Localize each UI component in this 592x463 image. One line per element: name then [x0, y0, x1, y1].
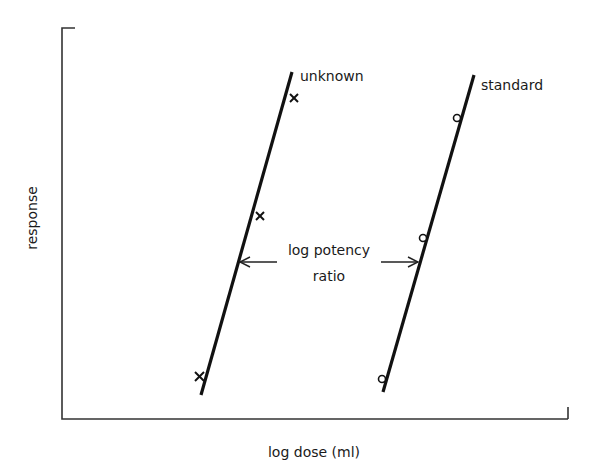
o-marker — [420, 235, 427, 242]
unknown-line — [201, 72, 292, 395]
x-marker — [256, 212, 264, 220]
potency-ratio-label-line1: log potency — [288, 242, 370, 258]
unknown-label: unknown — [300, 68, 364, 84]
o-marker — [379, 376, 386, 383]
x-marker — [195, 372, 204, 381]
y-axis-label: response — [24, 186, 40, 250]
x-axis-label: log dose (ml) — [268, 444, 360, 460]
potency-ratio-arrows — [240, 257, 418, 267]
o-marker — [454, 115, 461, 122]
standard-line — [383, 75, 474, 392]
potency-ratio-label-line2: ratio — [313, 268, 345, 284]
x-marker — [290, 94, 298, 102]
standard-label: standard — [481, 77, 543, 93]
parallel-line-assay-chart: unknown standard log potency ratio log d… — [0, 0, 592, 463]
standard-points — [379, 115, 461, 383]
